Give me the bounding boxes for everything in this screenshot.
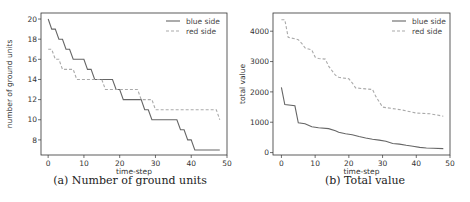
y-tick-label: 0	[264, 148, 269, 157]
y-tick-label: 12	[27, 95, 37, 104]
legend-label: red side	[186, 27, 216, 36]
chart-total-value: 0102030405001000200030004000time-steptot…	[238, 13, 455, 187]
y-tick-label: 3000	[250, 57, 269, 66]
x-tick-label: 50	[445, 159, 455, 168]
legend-label: blue side	[412, 17, 446, 26]
y-tick-label: 16	[27, 55, 37, 64]
y-axis-label: total value	[238, 64, 247, 104]
y-tick-label: 4000	[250, 27, 269, 36]
figure-caption: (b) Total value	[325, 174, 405, 187]
series-line-blue-side	[48, 19, 220, 150]
legend-label: blue side	[186, 17, 220, 26]
y-tick-label: 2000	[250, 88, 269, 97]
x-tick-label: 0	[279, 159, 284, 168]
y-tick-label: 1000	[250, 118, 269, 127]
x-tick-label: 50	[222, 159, 232, 168]
y-tick-label: 20	[27, 15, 37, 24]
x-tick-label: 10	[79, 159, 89, 168]
series-line-red-side	[48, 49, 220, 120]
x-tick-label: 10	[310, 159, 320, 168]
x-tick-label: 40	[186, 159, 196, 168]
x-tick-label: 40	[412, 159, 422, 168]
y-tick-label: 8	[32, 136, 37, 145]
y-tick-label: 18	[27, 35, 37, 44]
legend-label: red side	[412, 27, 442, 36]
chart-ground-units: 010203040508101214161820time-stepnumber …	[5, 13, 232, 187]
figure-caption: (a) Number of ground units	[53, 174, 207, 187]
series-line-blue-side	[281, 87, 443, 148]
x-tick-label: 30	[151, 159, 161, 168]
y-axis-label: number of ground units	[5, 40, 14, 129]
y-tick-label: 14	[27, 75, 37, 84]
x-tick-label: 0	[46, 159, 51, 168]
figure: 010203040508101214161820time-stepnumber …	[0, 0, 470, 202]
y-tick-label: 10	[27, 115, 37, 124]
